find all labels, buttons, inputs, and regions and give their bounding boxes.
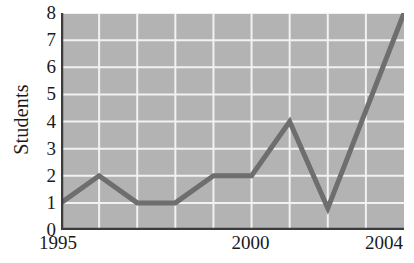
y-axis-title: Students [10, 50, 33, 190]
plot-area [61, 13, 404, 230]
y-tick-label: 4 [34, 112, 56, 131]
y-tick-label: 2 [34, 166, 56, 185]
plot-svg [61, 13, 404, 230]
line-chart-figure: Students 012345678 199520002004 [0, 0, 414, 263]
x-tick-label: 2000 [232, 232, 270, 254]
y-axis-tick-labels: 012345678 [34, 13, 56, 230]
x-tick-label: 1995 [39, 232, 77, 254]
x-tick-label: 2004 [365, 232, 403, 254]
y-tick-label: 8 [34, 3, 56, 22]
y-tick-label: 7 [34, 30, 56, 49]
y-tick-label: 3 [34, 139, 56, 158]
y-tick-label: 1 [34, 193, 56, 212]
y-tick-label: 6 [34, 57, 56, 76]
y-tick-label: 5 [34, 84, 56, 103]
x-axis-tick-labels: 199520002004 [0, 232, 414, 260]
